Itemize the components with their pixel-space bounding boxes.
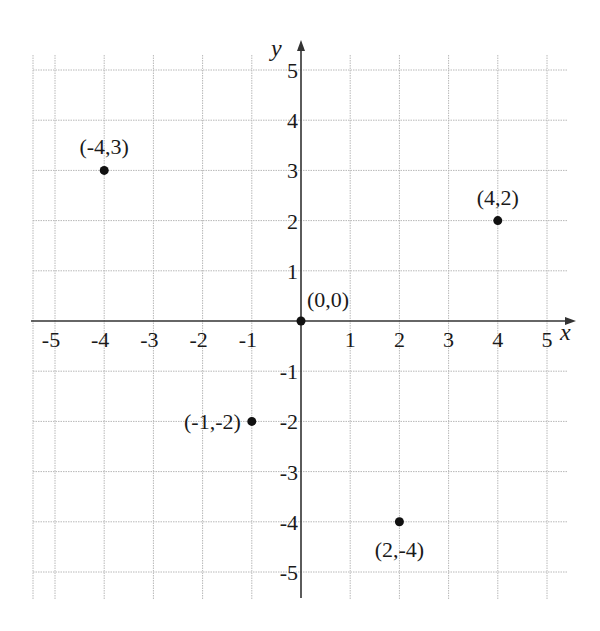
point-label: (4,2): [477, 185, 519, 210]
y-tick-label: -4: [280, 510, 298, 535]
point-label: (-4,3): [79, 134, 128, 159]
x-tick-label: -4: [91, 327, 109, 352]
data-point: [297, 317, 306, 326]
x-tick-label: 4: [492, 327, 503, 352]
data-point: [493, 216, 502, 225]
point-label: (0,0): [307, 287, 349, 312]
y-tick-label: 5: [287, 58, 298, 83]
x-tick-label: -3: [140, 327, 158, 352]
y-tick-label: 2: [287, 209, 298, 234]
y-axis-label: y: [269, 35, 282, 61]
x-tick-label: -2: [189, 327, 207, 352]
data-point: [395, 517, 404, 526]
x-axis-label: x: [559, 319, 571, 345]
x-tick-label: -5: [42, 327, 60, 352]
y-tick-label: -3: [280, 460, 298, 485]
coordinate-plane: -5-4-3-2-11234554321-1-2-3-4-5 x y (-4,3…: [0, 0, 600, 631]
x-tick-label: 1: [345, 327, 356, 352]
data-point: [100, 166, 109, 175]
y-tick-label: -5: [280, 560, 298, 585]
y-tick-label: 3: [287, 158, 298, 183]
data-point: [247, 417, 256, 426]
x-tick-label: -1: [239, 327, 257, 352]
x-tick-label: 5: [542, 327, 553, 352]
x-tick-label: 2: [394, 327, 405, 352]
x-tick-label: 3: [443, 327, 454, 352]
point-label: (-1,-2): [184, 409, 241, 434]
y-tick-label: -1: [280, 359, 298, 384]
y-tick-label: 4: [287, 108, 298, 133]
point-label: (2,-4): [375, 537, 424, 562]
y-tick-label: 1: [287, 259, 298, 284]
y-tick-label: -2: [280, 409, 298, 434]
y-axis-arrow-icon: [297, 40, 305, 51]
